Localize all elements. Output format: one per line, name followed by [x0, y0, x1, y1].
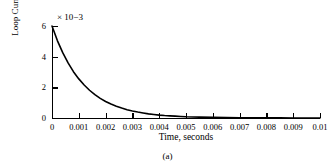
x-tick-mark [79, 113, 80, 118]
x-tick-mark [266, 113, 267, 118]
y-axis-multiplier: × 10−3 [57, 12, 83, 23]
y-axis-title: Loop Current, amperes [8, 0, 22, 40]
figure-caption: (a) [0, 150, 335, 162]
series-loop-current-line [52, 26, 320, 118]
y-tick-mark [53, 57, 58, 58]
figure-container: × 10−3 Loop Current, amperes 00.0010.002… [0, 0, 335, 167]
x-tick-mark [106, 113, 107, 118]
y-tick-label: 4 [42, 52, 46, 62]
y-tick-label: 0 [42, 113, 46, 123]
x-tick-mark [320, 113, 321, 118]
x-tick-mark [240, 113, 241, 118]
x-tick-mark [132, 113, 133, 118]
x-tick-mark [159, 113, 160, 118]
x-tick-mark [293, 113, 294, 118]
plot-area: 00.0010.0020.0030.0040.0050.0060.0070.00… [52, 26, 320, 118]
y-tick-mark [53, 87, 58, 88]
y-tick-label: 6 [42, 21, 46, 31]
y-tick-mark [53, 26, 58, 27]
y-axis-multiplier-text: × 10−3 [57, 12, 83, 22]
x-tick-mark [186, 113, 187, 118]
data-curve-svg [52, 26, 320, 118]
x-axis-title: Time, seconds [52, 131, 320, 143]
y-tick-label: 2 [42, 82, 46, 92]
x-tick-mark [213, 113, 214, 118]
y-tick-mark [53, 118, 58, 119]
